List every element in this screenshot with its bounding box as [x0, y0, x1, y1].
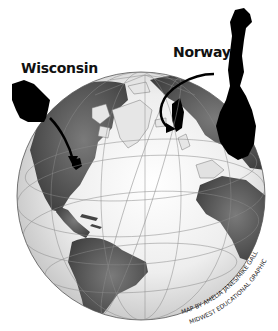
wisconsin-silhouette [12, 80, 50, 122]
label-wisconsin: Wisconsin [21, 60, 98, 76]
label-norway: Norway [173, 44, 231, 60]
norway-silhouette [216, 8, 256, 160]
globe-map: MAP BY AMELIA JANES/MIKE GALLAGHER, MIDW… [0, 0, 278, 331]
